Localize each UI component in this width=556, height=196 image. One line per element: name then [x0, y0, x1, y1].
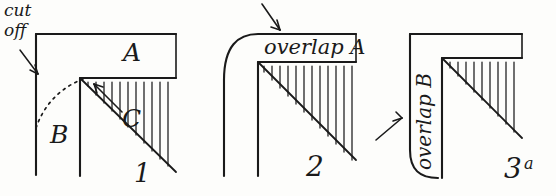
figure-1: cut off A B C 1	[0, 0, 200, 196]
figure-1-number: 1	[134, 160, 151, 187]
figure-3: overlap B 3 a	[370, 0, 556, 196]
figure-1-label-c: C	[122, 106, 141, 132]
figure-2-number: 2	[306, 152, 324, 181]
figure-1-label-b: B	[50, 122, 68, 148]
figure-2: overlap A 2	[200, 0, 370, 196]
figure-3-number-superscript: a	[524, 156, 534, 173]
figure-1-drawing	[0, 0, 200, 196]
figure-1-label-cut: cut	[4, 2, 31, 20]
figure-3-number: 3	[504, 154, 522, 183]
figure-1-label-off: off	[4, 22, 26, 40]
figure-2-drawing	[200, 0, 370, 196]
figure-1-label-a: A	[123, 40, 141, 66]
diagram-canvas: cut off A B C 1	[0, 0, 556, 196]
figure-3-label-overlap-b: overlap B	[414, 73, 435, 170]
figure-2-label-overlap-a: overlap A	[264, 36, 366, 58]
